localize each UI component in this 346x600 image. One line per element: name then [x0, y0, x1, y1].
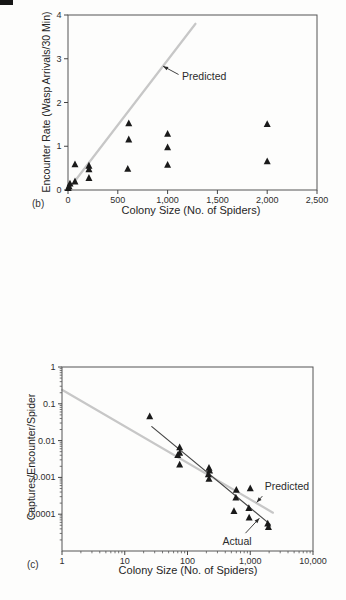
panel-c-x-axis-label: Colony Size (No. of Spiders) [119, 564, 258, 576]
y-tick-label: 0 [56, 185, 61, 195]
x-tick-label: 10,000 [299, 556, 327, 566]
predicted-line [62, 390, 273, 513]
x-tick-label: 2,000 [256, 195, 279, 205]
y-tick-label: 3 [56, 54, 61, 64]
data-point-triangle [125, 136, 132, 143]
plot-frame [68, 15, 317, 190]
scanned-figure-page: 05001,0001,5002,0002,50001234Predicted E… [0, 0, 346, 600]
data-point-triangle [85, 174, 92, 181]
predicted-annotation-label: Predicted [182, 70, 227, 82]
x-tick-label: 2,500 [306, 195, 329, 205]
x-tick-label: 1,000 [156, 195, 179, 205]
data-point-triangle [176, 461, 183, 468]
data-point-triangle [264, 120, 271, 127]
data-point-triangle [164, 161, 171, 168]
panel-c-y-axis-label: Captures/Encounter/Spider [25, 394, 37, 521]
data-point-triangle [146, 412, 153, 419]
panel-b-y-axis-label: Encounter Rate (Wasp Arrivals/30 Min) [40, 11, 52, 192]
x-tick-label: 1,500 [206, 195, 229, 205]
panel-b-x-axis-label: Colony Size (No. of Spiders) [122, 204, 261, 216]
y-tick-label: 0.01 [38, 436, 56, 446]
y-tick-label: 0.1 [43, 399, 56, 409]
data-point-triangle [230, 507, 237, 514]
y-tick-label: 4 [56, 10, 61, 20]
y-tick-label: 1 [50, 362, 55, 372]
data-point-triangle [164, 130, 171, 137]
data-point-triangle [71, 161, 78, 168]
panel-b-label: (b) [32, 198, 44, 209]
data-point-triangle [247, 484, 254, 491]
data-point-triangle [264, 157, 271, 164]
predicted-annotation-arrowhead [163, 66, 168, 70]
y-tick-label: 2 [56, 98, 61, 108]
data-point-triangle [124, 165, 131, 172]
x-tick-label: 1 [59, 556, 64, 566]
data-point-triangle [164, 143, 171, 150]
x-tick-label: 500 [110, 195, 125, 205]
x-tick-label: 0 [65, 195, 70, 205]
actual-annotation-label: Actual [222, 535, 251, 547]
data-point-triangle [125, 119, 132, 126]
predicted-line [68, 24, 195, 190]
predicted-annotation-label: Predicted [265, 480, 310, 492]
panel-c-label: (c) [27, 559, 39, 570]
panel-c-plot: 1101001,00010,00010.10.010.0010.0001Pred… [0, 350, 346, 600]
data-point-triangle [246, 514, 253, 521]
y-tick-label: 1 [56, 141, 61, 151]
plot-frame [62, 367, 313, 551]
